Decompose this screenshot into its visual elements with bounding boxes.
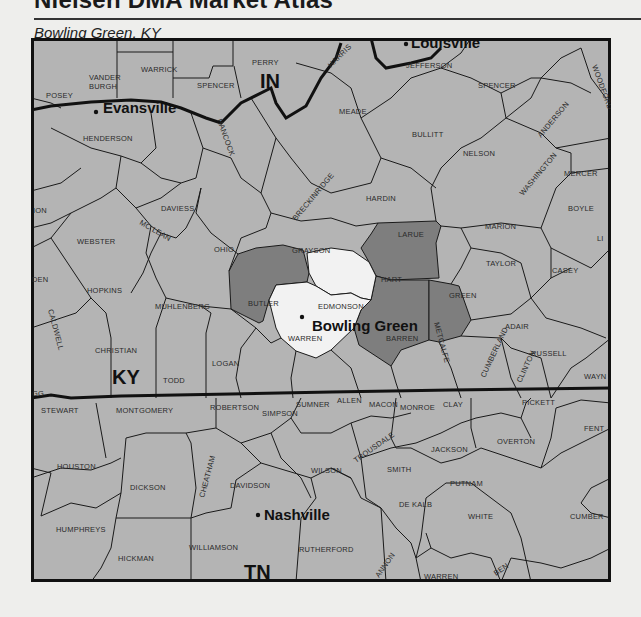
louisville-dot bbox=[404, 42, 408, 46]
atlas-title: Nielsen DMA Market Atlas bbox=[34, 0, 333, 14]
county-label-crittenden: DEN bbox=[32, 275, 48, 284]
county-label-union: ION bbox=[33, 206, 47, 215]
county-label-green: GREEN bbox=[449, 291, 477, 300]
county-label-ohio: OHIO bbox=[214, 245, 234, 254]
city-label-nashville: Nashville bbox=[264, 506, 330, 523]
county-label-sumner: SUMNER bbox=[296, 400, 330, 409]
county-label-webster: WEBSTER bbox=[77, 237, 116, 246]
county-label-stewart: STEWART bbox=[41, 406, 79, 415]
county-label-allen: ALLEN bbox=[337, 396, 362, 405]
county-label-marion: MARION bbox=[485, 222, 516, 231]
county-label-spencer-in: SPENCER bbox=[197, 81, 235, 90]
county-label-christian: CHRISTIAN bbox=[95, 346, 137, 355]
county-label-wayne: WAYN bbox=[584, 372, 606, 381]
city-label-evansville: Evansville bbox=[103, 99, 176, 116]
county-label-warrick: WARRICK bbox=[141, 65, 178, 74]
county-label-henderson: HENDERSON bbox=[83, 134, 133, 143]
county-label-monroe: MONROE bbox=[400, 403, 435, 412]
state-label-in: IN bbox=[260, 70, 280, 92]
county-label-warren-tn: WARREN bbox=[424, 572, 458, 581]
county-label-putnam: PUTNAM bbox=[450, 479, 483, 488]
county-label-houston: HOUSTON bbox=[57, 462, 96, 471]
county-label-edmonson: EDMONSON bbox=[318, 302, 364, 311]
county-label-humphreys: HUMPHREYS bbox=[56, 525, 106, 534]
county-label-lincoln: LI bbox=[597, 234, 604, 243]
county-label-jackson: JACKSON bbox=[431, 445, 468, 454]
county-label-fentress: FENT bbox=[584, 424, 605, 433]
county-label-logan: LOGAN bbox=[212, 359, 239, 368]
county-label-davidson: DAVIDSON bbox=[230, 481, 270, 490]
county-label-hopkins: HOPKINS bbox=[87, 286, 122, 295]
city-label-bowling-green: Bowling Green bbox=[312, 317, 418, 334]
county-label-cumberland-tn: CUMBER bbox=[570, 512, 604, 521]
county-label-jefferson: JEFFERSON bbox=[406, 61, 452, 70]
nashville-dot bbox=[256, 513, 260, 517]
county-label-barren: BARREN bbox=[386, 334, 418, 343]
county-label-overton: OVERTON bbox=[497, 437, 535, 446]
county-label-taylor: TAYLOR bbox=[486, 259, 516, 268]
county-label-robertson: ROBERTSON bbox=[210, 403, 259, 412]
county-label-warren: WARREN bbox=[288, 334, 322, 343]
county-label-hickman: HICKMAN bbox=[118, 554, 154, 563]
county-label-hardin: HARDIN bbox=[366, 194, 396, 203]
state-label-ky: KY bbox=[112, 366, 140, 388]
county-label-dekalb: DE KALB bbox=[399, 500, 432, 509]
county-label-todd: TODD bbox=[163, 376, 185, 385]
county-label-pickett: PICKETT bbox=[522, 398, 555, 407]
county-label-butler: BUTLER bbox=[248, 299, 279, 308]
county-label-vanderburgh-1: VANDER bbox=[89, 73, 121, 82]
county-label-nelson: NELSON bbox=[463, 149, 495, 158]
county-label-macon: MACON bbox=[369, 400, 398, 409]
county-label-vanderburgh-2: BURGH bbox=[89, 82, 117, 91]
county-label-boyle: BOYLE bbox=[568, 204, 594, 213]
title-divider bbox=[34, 18, 641, 20]
county-label-grayson: GRAYSON bbox=[292, 246, 330, 255]
county-label-rutherford: RUTHERFORD bbox=[299, 545, 354, 554]
county-label-williamson: WILLIAMSON bbox=[189, 543, 238, 552]
county-label-clay: CLAY bbox=[443, 400, 463, 409]
state-label-tn: TN bbox=[244, 561, 271, 582]
county-label-hart: HART bbox=[381, 275, 402, 284]
county-label-dickson: DICKSON bbox=[130, 483, 166, 492]
county-label-bullitt: BULLITT bbox=[412, 130, 444, 139]
county-label-mercer: MERCER bbox=[564, 169, 598, 178]
dma-map: IN KY TN Evansville Louisville Bowling G… bbox=[31, 38, 611, 582]
county-label-perry: PERRY bbox=[252, 58, 279, 67]
county-label-larue: LARUE bbox=[398, 230, 424, 239]
county-label-montgomery: MONTGOMERY bbox=[116, 406, 173, 415]
county-label-casey: CASEY bbox=[552, 266, 578, 275]
city-label-louisville: Louisville bbox=[411, 38, 480, 51]
evansville-dot bbox=[94, 110, 98, 114]
county-label-white: WHITE bbox=[468, 512, 493, 521]
county-label-posey: POSEY bbox=[46, 91, 73, 100]
county-label-trigg: GG bbox=[32, 389, 44, 398]
county-label-spencer-ky: SPENCER bbox=[478, 81, 516, 90]
county-label-daviess: DAVIESS bbox=[161, 204, 194, 213]
county-label-muhlenberg: MUHLENBERG bbox=[155, 302, 210, 311]
county-label-smith: SMITH bbox=[387, 465, 411, 474]
county-label-wilson: WILSON bbox=[311, 466, 342, 475]
bowling-green-dot bbox=[300, 315, 304, 319]
county-label-simpson: SIMPSON bbox=[262, 409, 298, 418]
county-label-meade: MEADE bbox=[339, 107, 367, 116]
